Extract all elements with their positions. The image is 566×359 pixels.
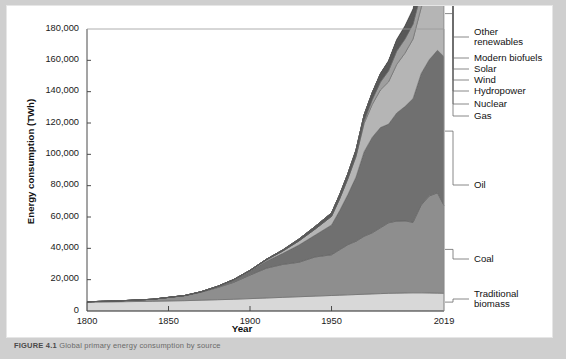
legend-label-line2: biomass (474, 299, 518, 309)
legend-item-wind[interactable]: Wind (474, 75, 496, 85)
legend-leader-line (445, 6, 469, 104)
legend-leader-line (445, 249, 469, 259)
y-tick-label: 180,000 (7, 23, 79, 33)
caption-label: FIGURE 4.1 (14, 341, 57, 350)
y-tick-label: 80,000 (7, 179, 79, 189)
legend-item-oil[interactable]: Oil (474, 180, 486, 190)
x-tick-label: 1800 (57, 316, 117, 326)
x-tick-label: 1950 (302, 316, 362, 326)
legend-item-gas[interactable]: Gas (474, 111, 492, 121)
legend-label-line2: renewables (474, 37, 523, 47)
legend-item-coal[interactable]: Coal (474, 254, 494, 264)
legend-leader-line (445, 131, 469, 185)
legend-label-line1: Modern biofuels (474, 53, 542, 63)
legend-leader-line (445, 6, 469, 91)
legend-label-line1: Coal (474, 254, 494, 264)
caption-description: Global primary energy consumption by sou… (59, 341, 221, 350)
figure-caption: FIGURE 4.1 Global primary energy consump… (14, 341, 221, 350)
x-tick-label: 2019 (414, 316, 474, 326)
legend-item-other-renewables[interactable]: Otherrenewables (474, 27, 523, 47)
y-tick-label: 20,000 (7, 273, 79, 283)
legend-label-line1: Solar (474, 64, 496, 74)
legend-leader-line (445, 6, 469, 69)
legend-label-line1: Nuclear (474, 99, 507, 109)
y-tick-label: 60,000 (7, 211, 79, 221)
figure-caption-strip: FIGURE 4.1 Global primary energy consump… (0, 341, 566, 359)
legend-item-hydropower[interactable]: Hydropower (474, 86, 526, 96)
legend-leader-line (445, 299, 469, 302)
y-tick-label: 120,000 (7, 117, 79, 127)
legend-label-line1: Wind (474, 75, 496, 85)
legend-leader-line (445, 6, 469, 37)
legend-item-modern-biofuels[interactable]: Modern biofuels (474, 53, 542, 63)
legend-item-solar[interactable]: Solar (474, 64, 496, 74)
y-tick-label: 160,000 (7, 54, 79, 64)
legend-item-nuclear[interactable]: Nuclear (474, 99, 507, 109)
legend-item-traditional-biomass[interactable]: Traditionalbiomass (474, 289, 518, 309)
legend-label-line1: Hydropower (474, 86, 526, 96)
y-tick-label: 100,000 (7, 148, 79, 158)
plot-svg (7, 6, 552, 337)
y-tick-label: 40,000 (7, 242, 79, 252)
y-tick-label: 140,000 (7, 85, 79, 95)
x-tick-label: 1850 (139, 316, 199, 326)
legend-label-line1: Gas (474, 111, 492, 121)
stacked-area-chart: Energy consumption (TWh) Year 020,00040,… (7, 6, 552, 337)
y-tick-label: 0 (7, 305, 79, 315)
legend-leader-line (445, 14, 469, 116)
figure-container: Energy consumption (TWh) Year 020,00040,… (0, 0, 566, 359)
figure-panel: Energy consumption (TWh) Year 020,00040,… (7, 6, 552, 337)
x-tick-label: 1900 (220, 316, 280, 326)
legend-label-line1: Oil (474, 180, 486, 190)
